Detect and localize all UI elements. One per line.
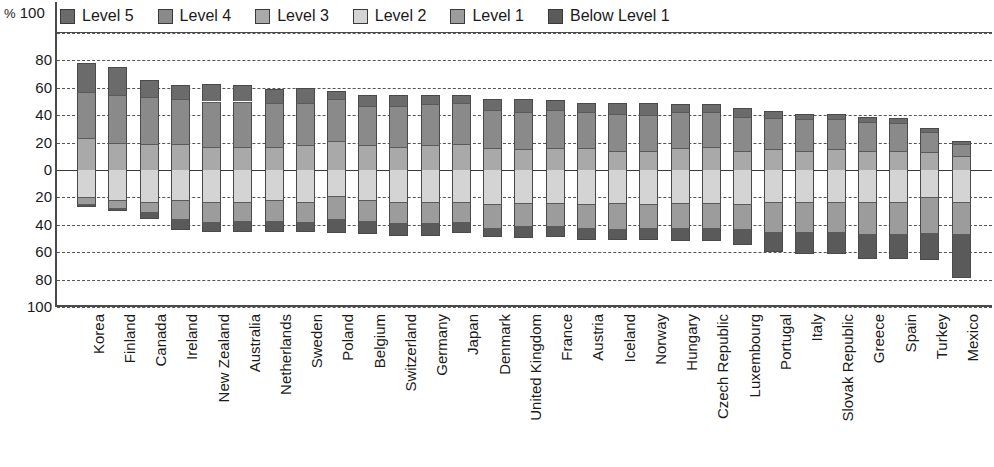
bar-column[interactable] (546, 33, 565, 305)
bar-column[interactable] (952, 33, 971, 305)
bar-segment (452, 222, 471, 233)
bar-segment (358, 200, 377, 221)
bar-segment (952, 156, 971, 170)
legend-item[interactable]: Level 4 (158, 8, 232, 24)
x-axis-label: Finland (122, 314, 137, 363)
bar-segment (827, 149, 846, 170)
bar-segment (858, 170, 877, 202)
bar-column[interactable] (421, 33, 440, 305)
bar-segment (608, 114, 627, 151)
bar-column[interactable] (296, 33, 315, 305)
bar-segment (389, 170, 408, 202)
bar-segment (77, 204, 96, 207)
bar-segment (233, 85, 252, 101)
bar-segment (639, 204, 658, 227)
bar-column[interactable] (171, 33, 190, 305)
bar-segment (202, 170, 221, 202)
bar-segment (514, 112, 533, 149)
legend-item[interactable]: Level 5 (60, 8, 134, 24)
bar-segment (327, 196, 346, 219)
bar-column[interactable] (827, 33, 846, 305)
bar-segment (889, 151, 908, 170)
bar-column[interactable] (920, 33, 939, 305)
bar-segment (546, 226, 565, 237)
x-axis-label: Belgium (372, 314, 387, 368)
bar-column[interactable] (608, 33, 627, 305)
bar-segment (952, 170, 971, 202)
bar-column[interactable] (577, 33, 596, 305)
bar-segment (858, 122, 877, 151)
bar-column[interactable] (483, 33, 502, 305)
bar-segment (171, 85, 190, 99)
bar-segment (920, 128, 939, 132)
bar-segment (920, 197, 939, 233)
chart-plot-area: 80604020020406080100 (55, 33, 992, 307)
bar-column[interactable] (514, 33, 533, 305)
bar-column[interactable] (452, 33, 471, 305)
bar-segment (233, 147, 252, 170)
x-axis-label: Czech Republic (715, 314, 730, 419)
bar-segment (233, 221, 252, 232)
bar-segment (671, 112, 690, 148)
bar-segment (140, 144, 159, 170)
bar-segment (858, 151, 877, 170)
legend-item-label: Level 1 (472, 8, 524, 24)
bar-segment (733, 170, 752, 204)
x-axis-label: Spain (903, 314, 918, 352)
bar-segment (577, 228, 596, 240)
bar-column[interactable] (858, 33, 877, 305)
bar-column[interactable] (671, 33, 690, 305)
bar-segment (577, 103, 596, 113)
bar-segment (327, 91, 346, 99)
legend-item[interactable]: Level 1 (450, 8, 524, 24)
bar-segment (140, 97, 159, 144)
legend-item[interactable]: Level 2 (353, 8, 427, 24)
bar-column[interactable] (202, 33, 221, 305)
bar-segment (452, 103, 471, 144)
bar-segment (358, 145, 377, 170)
bar-column[interactable] (389, 33, 408, 305)
x-axis-label: Luxembourg (747, 314, 762, 397)
bar-segment (327, 99, 346, 141)
y-axis-tick-label: 20 (35, 135, 52, 150)
bar-segment (889, 234, 908, 259)
bar-segment (702, 104, 721, 112)
bar-segment (296, 222, 315, 232)
bar-segment (108, 170, 127, 200)
bar-segment (171, 99, 190, 144)
bar-column[interactable] (233, 33, 252, 305)
bar-column[interactable] (327, 33, 346, 305)
bar-column[interactable] (702, 33, 721, 305)
x-axis-label: Austria (590, 314, 605, 361)
x-axis-label: France (559, 314, 574, 361)
bar-segment (827, 232, 846, 254)
bar-column[interactable] (265, 33, 284, 305)
chart-legend: Level 5Level 4Level 3Level 2Level 1Below… (60, 2, 694, 30)
bar-segment (140, 202, 159, 213)
bar-segment (452, 95, 471, 103)
bar-segment (858, 202, 877, 235)
bar-column[interactable] (108, 33, 127, 305)
bar-column[interactable] (733, 33, 752, 305)
bar-segment (389, 106, 408, 147)
bar-segment (702, 228, 721, 242)
legend-item[interactable]: Below Level 1 (548, 8, 670, 24)
bar-column[interactable] (358, 33, 377, 305)
y-axis-tick-label: 40 (35, 217, 52, 232)
bar-column[interactable] (795, 33, 814, 305)
x-axis-label: Mexico (965, 314, 980, 362)
bar-column[interactable] (889, 33, 908, 305)
bar-column[interactable] (77, 33, 96, 305)
bar-segment (233, 202, 252, 221)
x-axis-label: Italy (809, 314, 824, 342)
legend-item[interactable]: Level 3 (255, 8, 329, 24)
bar-segment (108, 67, 127, 94)
bar-column[interactable] (140, 33, 159, 305)
bar-segment (265, 103, 284, 147)
bar-segment (140, 80, 159, 98)
bar-segment (77, 92, 96, 139)
bar-column[interactable] (764, 33, 783, 305)
bar-segment (140, 170, 159, 202)
bar-column[interactable] (639, 33, 658, 305)
bar-segment (546, 100, 565, 110)
